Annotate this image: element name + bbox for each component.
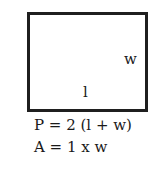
width-label: w (124, 52, 137, 67)
area-formula: A = 1 x w (34, 140, 107, 155)
length-label: l (83, 85, 88, 100)
perimeter-formula: P = 2 (l + w) (34, 118, 132, 133)
